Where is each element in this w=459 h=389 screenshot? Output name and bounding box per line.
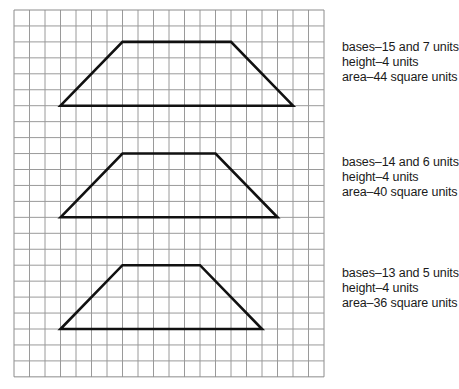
grid-lines [14,10,324,377]
height-label: height–4 units [342,55,459,70]
area-label: area–44 square units [342,70,459,85]
bases-label: bases–13 and 5 units [342,266,459,281]
bases-label: bases–14 and 6 units [342,155,459,170]
area-label: area–40 square units [342,185,459,200]
trapezoid-2-labels: bases–14 and 6 units height–4 units area… [342,155,459,200]
bases-label: bases–15 and 7 units [342,40,459,55]
height-label: height–4 units [342,170,459,185]
trapezoid-3-labels: bases–13 and 5 units height–4 units area… [342,266,459,311]
height-label: height–4 units [342,281,459,296]
area-label: area–36 square units [342,296,459,311]
trapezoid-1-labels: bases–15 and 7 units height–4 units area… [342,40,459,85]
